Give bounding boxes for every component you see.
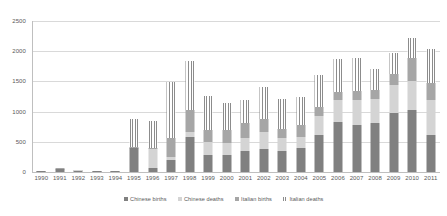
bar-group [347, 21, 366, 172]
legend-item[interactable]: Italian deaths [283, 196, 323, 202]
legend-swatch-icon [235, 197, 239, 201]
bar-stack[interactable] [185, 61, 194, 172]
bar-group [273, 21, 292, 172]
bar-segment [426, 83, 435, 100]
bar-stack[interactable] [315, 75, 324, 172]
bar-segment [259, 132, 268, 150]
bar-stack[interactable] [333, 59, 342, 172]
bar-segment [315, 135, 324, 172]
bar-stack[interactable] [352, 58, 361, 172]
bar-stack[interactable] [408, 38, 417, 172]
bar-segment [352, 58, 361, 92]
bar-stack[interactable] [55, 168, 64, 172]
legend-swatch-icon [124, 197, 128, 201]
bar-group [88, 21, 107, 172]
x-axis-tick-label: 1994 [106, 175, 125, 181]
bar-stack[interactable] [259, 87, 268, 172]
x-axis-tick-label: 2011 [421, 175, 440, 181]
bar-stack[interactable] [74, 170, 83, 172]
bar-segment [129, 148, 138, 172]
bar-stack[interactable] [37, 171, 46, 172]
bar-segment [241, 138, 250, 151]
legend-item[interactable]: Chinese births [124, 196, 167, 202]
bar-segment [296, 148, 305, 172]
x-axis-tick-label: 1999 [199, 175, 218, 181]
x-axis-tick-label: 2008 [366, 175, 385, 181]
bar-segment [259, 149, 268, 172]
bar-stack[interactable] [167, 82, 176, 172]
legend-item-label: Italian deaths [289, 196, 323, 202]
bar-group [32, 21, 51, 172]
bar-segment [389, 74, 398, 85]
bar-segment [148, 121, 157, 148]
bar-segment [185, 110, 194, 131]
x-axis-tick-label: 1993 [88, 175, 107, 181]
bar-stack[interactable] [426, 49, 435, 172]
x-axis-tick-label: 1991 [51, 175, 70, 181]
bar-segment [204, 142, 213, 155]
bar-segment [408, 38, 417, 58]
bar-segment [296, 97, 305, 126]
bar-stack[interactable] [371, 69, 380, 172]
bar-segment [222, 130, 231, 143]
bar-segment [278, 138, 287, 152]
bar-group [329, 21, 348, 172]
bar-group [217, 21, 236, 172]
bar-segment [185, 137, 194, 172]
bar-stack[interactable] [389, 53, 398, 172]
x-axis-tick-label: 1998 [180, 175, 199, 181]
bar-segment [371, 123, 380, 172]
x-axis-tick-label: 1992 [69, 175, 88, 181]
x-axis-tick-label: 2000 [217, 175, 236, 181]
bar-segment [389, 85, 398, 113]
bar-group [421, 21, 440, 172]
x-axis-tick-label: 1997 [162, 175, 181, 181]
bar-segment [426, 100, 435, 135]
legend-swatch-icon [283, 197, 287, 201]
bar-stack[interactable] [129, 119, 138, 172]
legend-item[interactable]: Chinese deaths [178, 196, 224, 202]
stacked-bar-chart: 05001000150020002500 1990199119921993199… [0, 0, 447, 216]
bar-stack[interactable] [111, 171, 120, 172]
bar-segment [333, 59, 342, 92]
bar-segment [408, 58, 417, 81]
bar-segment [278, 151, 287, 172]
bar-stack[interactable] [278, 99, 287, 172]
bar-stack[interactable] [148, 121, 157, 172]
bar-stack[interactable] [204, 96, 213, 172]
bar-group [403, 21, 422, 172]
legend-item-label: Chinese births [130, 196, 166, 202]
bar-segment [241, 151, 250, 172]
bar-segment [352, 100, 361, 125]
x-axis-tick-label: 2006 [329, 175, 348, 181]
legend-item[interactable]: Italian births [235, 196, 272, 202]
bar-group [199, 21, 218, 172]
bar-segment [278, 99, 287, 129]
y-axis-tick-label: 2000 [12, 48, 26, 54]
y-axis-tick-label: 1000 [12, 109, 26, 115]
x-axis-labels: 1990199119921993199419951996199719981999… [32, 175, 440, 189]
bar-group [236, 21, 255, 172]
bar-group [51, 21, 70, 172]
bar-segment [148, 149, 157, 168]
bar-group [366, 21, 385, 172]
bar-segment [296, 137, 305, 148]
bar-segment [167, 82, 176, 138]
bar-segment [241, 123, 250, 138]
bar-group [69, 21, 88, 172]
bar-group [255, 21, 274, 172]
bar-segment [352, 125, 361, 172]
bar-stack[interactable] [92, 171, 101, 172]
x-axis-tick-label: 2005 [310, 175, 329, 181]
bar-segment [426, 49, 435, 83]
bar-segment [241, 100, 250, 123]
bar-stack[interactable] [241, 100, 250, 172]
bar-stack[interactable] [296, 97, 305, 172]
bar-group [125, 21, 144, 172]
x-axis-tick-label: 2002 [255, 175, 274, 181]
bar-segment [426, 135, 435, 172]
bar-segment [129, 119, 138, 147]
bar-stack[interactable] [222, 103, 231, 172]
x-axis-tick-label: 1990 [32, 175, 51, 181]
bar-segment [259, 87, 268, 118]
